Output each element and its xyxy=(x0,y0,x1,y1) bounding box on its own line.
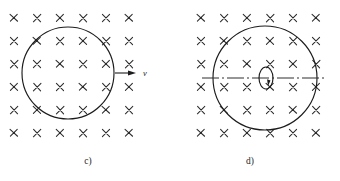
field-x-mark xyxy=(33,129,40,136)
panel-d: d) xyxy=(197,14,325,167)
field-x-mark xyxy=(289,129,296,136)
field-x-mark xyxy=(266,37,273,44)
physics-figure: v c) d) xyxy=(0,0,340,181)
field-x-mark xyxy=(33,14,40,21)
field-x-mark xyxy=(125,60,133,68)
field-x-mark xyxy=(289,83,296,90)
field-x-mark xyxy=(289,37,297,45)
field-x-mark xyxy=(243,14,250,21)
field-x-mark xyxy=(243,60,251,67)
field-x-mark xyxy=(56,60,64,67)
panel-caption-d: d) xyxy=(246,156,254,167)
field-x-mark xyxy=(220,129,227,136)
field-x-mark xyxy=(220,83,228,91)
field-x-mark xyxy=(197,14,205,21)
field-x-mark xyxy=(33,83,41,91)
field-x-mark xyxy=(266,14,274,22)
field-x-mark xyxy=(125,129,133,136)
field-x-mark xyxy=(197,83,204,90)
field-x-mark xyxy=(102,129,109,136)
field-x-mark xyxy=(10,106,17,113)
field-x-mark xyxy=(266,106,273,113)
field-x-mark xyxy=(10,37,17,44)
field-x-mark xyxy=(10,14,18,21)
field-x-mark xyxy=(56,129,63,136)
field-x-mark xyxy=(220,14,227,21)
field-x-mark xyxy=(312,37,319,44)
field-x-mark xyxy=(312,129,320,136)
field-x-mark xyxy=(10,60,18,68)
field-x-mark xyxy=(79,83,87,90)
panel-caption-c: c) xyxy=(84,156,91,167)
panel-c: v c) xyxy=(10,14,147,167)
figure-canvas: v c) d) xyxy=(0,0,340,181)
field-x-mark xyxy=(79,37,86,44)
field-x-mark xyxy=(79,106,86,113)
field-x-mark xyxy=(79,14,87,22)
field-x-mark xyxy=(243,106,251,114)
field-x-mark xyxy=(197,106,204,113)
velocity-arrow-head xyxy=(128,71,136,76)
field-x-mark xyxy=(266,129,274,137)
field-x-mark xyxy=(56,106,64,114)
field-x-mark xyxy=(197,37,204,44)
field-x-mark xyxy=(125,106,132,113)
field-x-mark xyxy=(289,60,296,67)
field-x-mark xyxy=(56,83,63,90)
velocity-label: v xyxy=(143,68,147,78)
field-x-mark xyxy=(10,129,18,136)
field-x-mark xyxy=(33,60,40,67)
field-x-mark xyxy=(312,106,319,113)
field-x-mark xyxy=(289,106,297,113)
field-x-mark xyxy=(312,14,320,21)
field-x-mark xyxy=(243,129,250,136)
field-x-mark xyxy=(79,60,86,67)
field-x-mark xyxy=(56,14,63,21)
field-x-mark xyxy=(125,83,132,90)
conducting-loop-c xyxy=(22,27,114,119)
field-x-mark xyxy=(243,83,250,90)
field-x-mark xyxy=(56,37,63,44)
field-x-mark xyxy=(102,83,109,90)
field-x-mark xyxy=(220,60,227,67)
field-x-mark xyxy=(197,60,205,68)
field-x-mark xyxy=(102,60,109,67)
field-x-mark xyxy=(125,14,133,21)
field-x-mark xyxy=(10,83,17,90)
field-grid-into-page-d xyxy=(197,14,320,137)
field-x-mark xyxy=(197,129,205,136)
field-x-mark xyxy=(79,129,87,137)
field-x-mark xyxy=(102,14,109,21)
field-x-mark xyxy=(102,106,110,113)
field-x-mark xyxy=(125,37,132,44)
field-x-mark xyxy=(243,37,250,44)
field-x-mark xyxy=(289,14,296,21)
